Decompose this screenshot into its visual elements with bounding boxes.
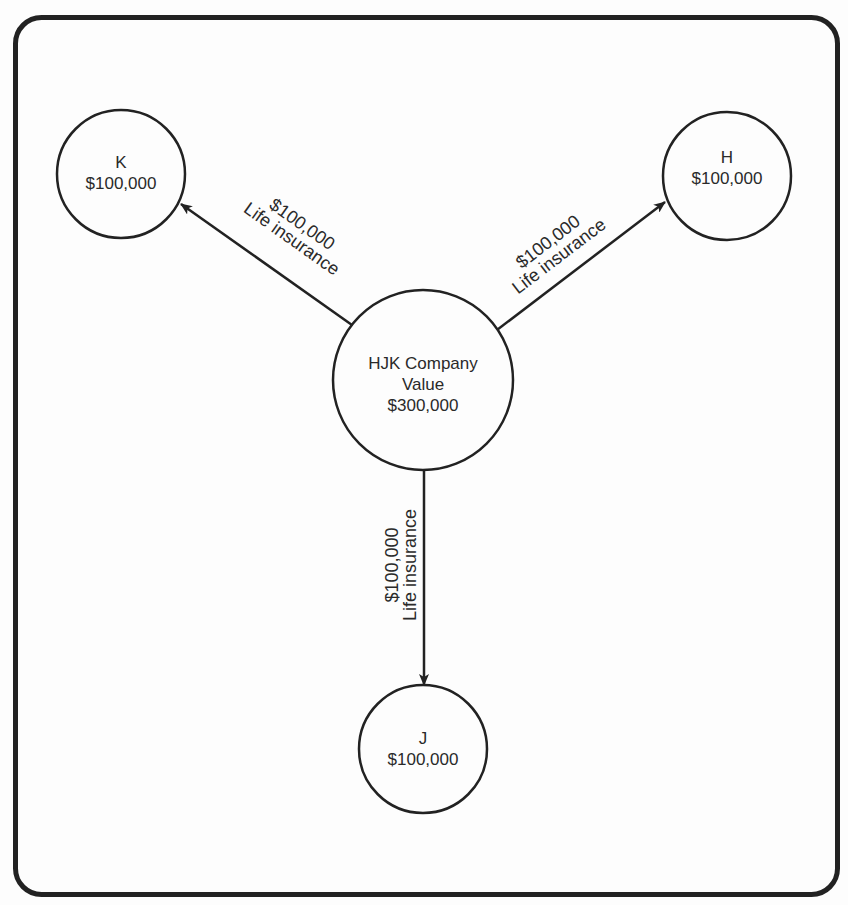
node-h: H $100,000 <box>663 112 791 240</box>
node-hjk-company-label: Value <box>402 375 444 394</box>
node-hjk-company-name: HJK Company <box>368 354 478 373</box>
node-k: K $100,000 <box>57 110 185 238</box>
node-h-value: $100,000 <box>692 169 763 188</box>
ownership-diagram: $100,000 Life insurance $100,000 Life in… <box>0 0 848 905</box>
node-k-value: $100,000 <box>86 174 157 193</box>
edge-label-j: $100,000 Life insurance <box>382 509 420 621</box>
node-j-value: $100,000 <box>388 750 459 769</box>
node-j: J $100,000 <box>359 685 487 813</box>
edge-label-j-type: Life insurance <box>400 509 420 621</box>
edge-label-j-amount: $100,000 <box>382 527 402 602</box>
node-j-name: J <box>419 729 428 748</box>
edge-label-h: $100,000 Life insurance <box>497 200 609 298</box>
node-h-name: H <box>721 148 733 167</box>
node-hjk-company-value: $300,000 <box>388 396 459 415</box>
node-k-name: K <box>115 153 127 172</box>
edge-label-k: $100,000 Life insurance <box>240 184 353 280</box>
node-hjk-company: HJK Company Value $300,000 <box>333 290 513 470</box>
